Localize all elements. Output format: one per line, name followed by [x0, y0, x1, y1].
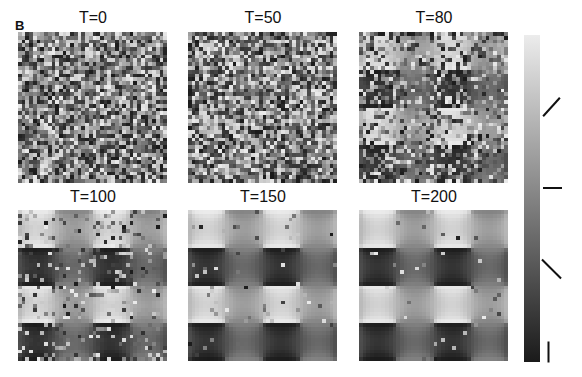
orientation-0-icon	[543, 187, 562, 189]
orientation-map-t0	[18, 32, 167, 183]
orientation-map-t150	[188, 210, 337, 361]
orientation-colorbar	[524, 35, 540, 362]
frame-title-t100: T=100	[18, 188, 168, 206]
orientation-map-t50	[188, 32, 337, 183]
orientation-map-t200	[359, 210, 508, 361]
frame-title-t0: T=0	[18, 9, 168, 27]
orientation-45-icon	[542, 97, 560, 117]
orientation-map-t80	[359, 32, 508, 183]
orientation-135-icon	[541, 259, 562, 280]
orientation-map-t100	[18, 210, 167, 361]
frame-title-t50: T=50	[188, 9, 338, 27]
frame-title-t150: T=150	[188, 188, 338, 206]
frame-title-t200: T=200	[359, 188, 509, 206]
frame-title-t80: T=80	[359, 9, 509, 27]
orientation-90-icon	[548, 342, 550, 363]
